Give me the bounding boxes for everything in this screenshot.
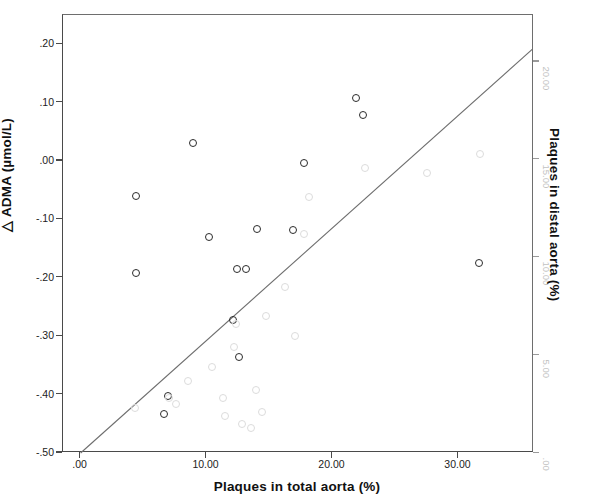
data-point [233,265,241,273]
y-axis-tick [56,218,62,219]
y-axis-tick-label: -.30 [0,329,54,341]
data-point [132,269,140,277]
data-point [247,424,255,432]
secondary-y-axis-tick [533,158,539,159]
y-axis-tick-label: -.50 [0,446,54,458]
x-axis-tick-label: 20.00 [318,458,344,470]
data-point [291,332,299,340]
data-point [361,164,369,172]
data-point [205,233,213,241]
y-axis-tick [56,43,62,44]
y-axis-tick [56,101,62,102]
data-point [476,150,484,158]
plot-area [62,14,533,452]
scatter-chart: .20.10.00-.10-.20-.30-.40-.50 .0010.0020… [0,0,594,503]
data-point [305,193,313,201]
y-axis-title: △ ADMA (µmol/L) [0,118,14,232]
data-point [131,404,139,412]
data-point [258,408,266,416]
x-axis-tick-label: .00 [72,458,87,470]
data-point [235,353,243,361]
data-point [475,259,483,267]
secondary-y-axis-title: Plaques in distal aorta (%) [547,128,562,301]
data-point [208,363,216,371]
secondary-y-axis-tick-label: 5.00 [541,360,552,379]
data-point [300,159,308,167]
y-axis-tick-label: .20 [0,37,54,49]
regression-line-layer [63,15,534,453]
y-axis-tick [56,451,62,452]
y-axis-tick [56,276,62,277]
data-point [132,192,140,200]
secondary-y-axis-tick [533,256,539,257]
secondary-y-axis-tick [533,354,539,355]
secondary-y-axis-tick-label: .00 [541,458,552,471]
data-point [253,225,261,233]
data-point [300,230,308,238]
y-axis-tick [56,393,62,394]
data-point [232,320,240,328]
data-point [242,265,250,273]
x-axis-tick-label: 10.00 [192,458,218,470]
y-axis-tick-label: -.40 [0,388,54,400]
y-axis-tick-label: -.20 [0,271,54,283]
secondary-y-axis-tick-label: 20.00 [541,66,552,90]
y-axis-tick [56,335,62,336]
data-point [359,111,367,119]
secondary-y-axis-tick [533,60,539,61]
data-point [184,377,192,385]
data-point [281,283,289,291]
x-axis-title: Plaques in total aorta (%) [0,479,594,494]
data-point [238,420,246,428]
y-axis-tick [56,159,62,160]
y-axis-tick-label: .10 [0,96,54,108]
data-point [160,410,168,418]
x-axis-tick-label: 30.00 [444,458,470,470]
secondary-y-axis-tick [533,452,539,453]
plot-inner [63,15,532,451]
regression-line [81,49,533,453]
data-point [262,312,270,320]
